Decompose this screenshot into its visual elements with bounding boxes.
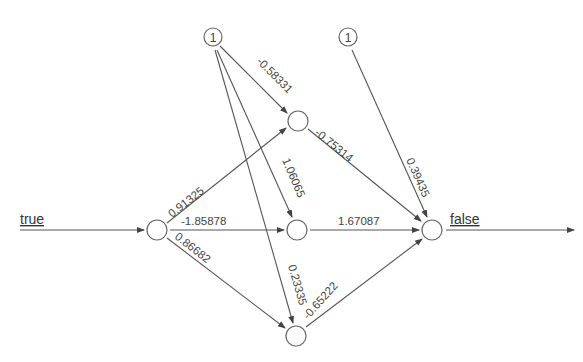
weight-hidden2-output: 1.67087 — [338, 215, 380, 227]
hidden-node-2 — [287, 220, 307, 240]
weight-bias2-output: 0.39435 — [404, 156, 432, 199]
output-label: false — [450, 211, 480, 227]
weight-bias1-hidden1: -0.58331 — [255, 55, 296, 96]
edge-bias2-output — [352, 50, 427, 217]
input-node — [147, 220, 167, 240]
weight-bias1-hidden3: 0.23335 — [286, 263, 309, 306]
weight-hidden1-output: -0.75314 — [313, 126, 356, 164]
output-node — [422, 220, 442, 240]
weight-bias1-hidden2: 1.06065 — [280, 156, 307, 199]
edge-input-hidden3 — [167, 238, 285, 328]
bias-node-1-label: 1 — [210, 31, 217, 45]
hidden-node-3 — [286, 326, 306, 346]
bias-node-2-label: 1 — [345, 31, 352, 45]
edge-bias1-hidden3 — [215, 50, 293, 323]
input-label: true — [20, 211, 44, 227]
neural-network-diagram: true false 0.91325 -1.85878 0.86682 -0.5… — [0, 0, 583, 362]
hidden-node-1 — [288, 111, 308, 131]
weight-input-hidden2: -1.85878 — [181, 215, 226, 227]
bias-node-1: 1 — [204, 28, 222, 46]
bias-node-2: 1 — [339, 28, 357, 46]
edge-hidden3-output — [306, 239, 422, 327]
